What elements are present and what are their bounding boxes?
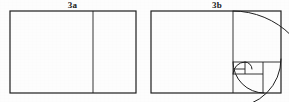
spiral-arc bbox=[245, 62, 252, 69]
figure-panel-3b: 3b bbox=[145, 0, 289, 102]
golden-rectangle-diagram bbox=[0, 0, 145, 102]
spiral-arc bbox=[233, 62, 264, 93]
panel-frame bbox=[151, 11, 281, 93]
spiral-arc bbox=[233, 59, 281, 102]
figure-panel-3a: 3a bbox=[0, 0, 145, 102]
panel-frame bbox=[10, 11, 136, 93]
figure-plate: 3a 3b bbox=[0, 0, 289, 102]
fibonacci-spiral-diagram bbox=[145, 0, 289, 102]
